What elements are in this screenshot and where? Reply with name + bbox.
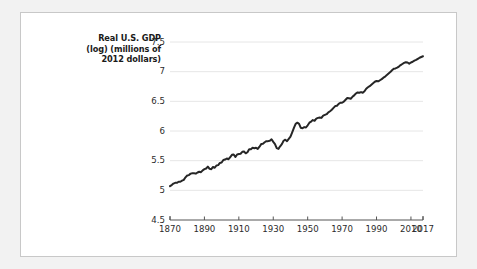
x-axis-tickmarks (170, 217, 423, 221)
x-tick-label: 1910 (222, 224, 256, 234)
x-tick-label: 1930 (256, 224, 290, 234)
axis-lines (170, 216, 423, 220)
x-tick-label: 2017 (406, 224, 440, 234)
y-tick-label: 4.5 (137, 215, 165, 225)
y-tick-label: 7 (137, 66, 165, 76)
gdp-line-chart (21, 13, 458, 258)
x-tick-label: 1870 (153, 224, 187, 234)
x-tick-label: 1970 (325, 224, 359, 234)
y-tick-label: 6 (137, 126, 165, 136)
gdp-series-line (170, 56, 423, 186)
y-tick-label: 5.5 (137, 155, 165, 165)
x-tick-label: 1950 (291, 224, 325, 234)
figure-frame: Real U.S. GDP (log) (millions of 2012 do… (20, 12, 457, 257)
y-tick-label: 7.5 (137, 37, 165, 47)
x-tick-label: 1990 (360, 224, 394, 234)
y-tick-label: 5 (137, 185, 165, 195)
y-tick-label: 6.5 (137, 96, 165, 106)
x-tick-label: 1890 (187, 224, 221, 234)
